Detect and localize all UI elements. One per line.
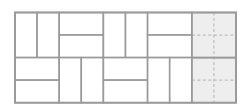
domino-horizontal [15, 80, 59, 103]
domino-tiling-diagram [0, 0, 250, 110]
domino-vertical [37, 13, 59, 58]
domino-horizontal [148, 35, 192, 58]
domino-horizontal [59, 13, 103, 36]
domino-vertical [170, 58, 192, 103]
dominoes [15, 13, 192, 103]
domino-vertical [81, 58, 103, 103]
domino-horizontal [15, 58, 59, 81]
domino-horizontal [103, 58, 147, 81]
domino-vertical [15, 13, 37, 58]
domino-horizontal [103, 80, 147, 103]
domino-horizontal [59, 35, 103, 58]
domino-vertical [103, 13, 125, 58]
domino-horizontal [148, 13, 192, 36]
domino-vertical [126, 13, 148, 58]
domino-vertical [148, 58, 170, 103]
domino-vertical [59, 58, 81, 103]
